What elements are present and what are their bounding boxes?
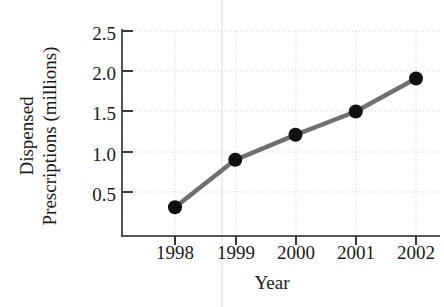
data-point-marker — [228, 153, 242, 167]
data-point-marker — [409, 72, 423, 86]
y-tick-marks — [122, 31, 133, 192]
data-point-marker — [168, 200, 182, 214]
plot-area — [0, 0, 444, 307]
x-tick-marks — [175, 236, 416, 245]
data-point-marker — [349, 105, 363, 119]
gridlines-horizontal — [122, 31, 440, 192]
line-chart-figure: Dispensed Prescriptions (millions) 2.5 2… — [0, 0, 444, 307]
data-point-markers — [168, 72, 423, 215]
data-point-marker — [289, 128, 303, 142]
